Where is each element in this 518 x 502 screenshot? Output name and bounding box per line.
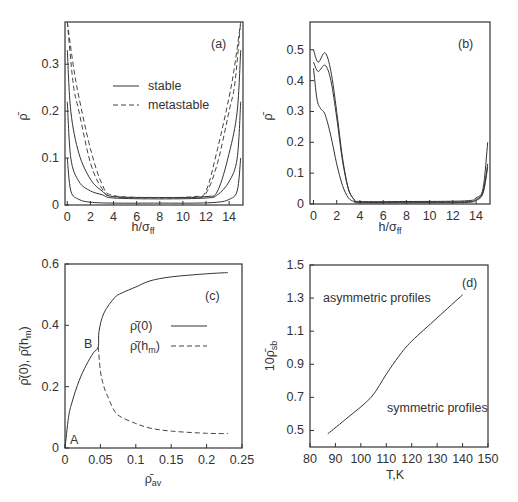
x-tick-label: 12: [199, 210, 213, 224]
panel-b-label: (b): [458, 37, 473, 51]
panel-d: 80901001101201301401500.50.70.91.11.31.5…: [263, 258, 498, 482]
y-tick-label: 0: [297, 197, 304, 211]
series-line: [314, 50, 488, 202]
y-tick-label: 0.7: [287, 390, 304, 404]
x-tick-label: 0: [310, 209, 317, 223]
x-tick-label: 80: [303, 452, 317, 466]
y-tick-label: 0.6: [42, 257, 59, 271]
y-tick-label: 0.5: [287, 43, 304, 57]
x-tick-label: 0.1: [127, 453, 144, 467]
x-tick-label: 90: [328, 452, 342, 466]
series-line: [67, 50, 240, 197]
x-tick-label: 0.25: [230, 453, 254, 467]
panel-a-legend: stable metastable: [113, 79, 209, 112]
y-tick-label: 1.1: [287, 324, 304, 338]
x-tick-label: 0: [62, 453, 69, 467]
x-tick-label: 10: [423, 209, 437, 223]
panel-a-ylabel: ρ̄: [16, 111, 30, 120]
annotation-a: A: [70, 433, 79, 447]
panel-a: 0246810121400.10.20.3 (a) stable metasta…: [16, 22, 243, 236]
x-tick-label: 8: [403, 209, 410, 223]
x-tick-label: 4: [110, 210, 117, 224]
x-tick-label: 110: [376, 452, 396, 466]
x-tick-label: 2: [87, 210, 94, 224]
panel-d-ylabel: 10ρ̄sb: [263, 341, 279, 372]
x-tick-label: 0.15: [159, 453, 183, 467]
annotation-symmetric: symmetric profiles: [387, 401, 488, 415]
y-tick-label: 0.9: [287, 357, 304, 371]
legend-rho0-label: ρ̄(0): [130, 319, 152, 333]
y-tick-label: 0.5: [287, 423, 304, 437]
series-line: [65, 273, 228, 448]
panel-c-curves: [65, 273, 228, 448]
y-tick-label: 0.4: [42, 318, 59, 332]
panel-b-axes: 0246810121400.10.20.30.40.5: [287, 43, 483, 223]
panel-a-label: (a): [211, 37, 226, 51]
x-tick-label: 10: [176, 210, 190, 224]
x-tick-label: 14: [469, 209, 483, 223]
y-tick-label: 0.3: [287, 104, 304, 118]
annotation-b: B: [84, 337, 92, 351]
x-tick-label: 2: [333, 209, 340, 223]
panel-c-label: (c): [205, 289, 220, 303]
x-tick-label: 4: [356, 209, 363, 223]
panel-a-xlabel: h/σff: [132, 220, 155, 236]
legend-metastable-label: metastable: [148, 98, 209, 112]
panel-b-ylabel: ρ̄: [261, 111, 275, 120]
panel-c: 00.050.10.150.20.2500.20.40.6 (c) ρ̄(0) …: [17, 257, 254, 488]
panel-c-ylabel: ρ̄(0), ρ̄(hm): [17, 326, 33, 385]
y-tick-label: 0.3: [42, 57, 59, 71]
series-line: [98, 347, 228, 434]
panel-c-xlabel: ρ̄av: [145, 472, 162, 488]
panel-d-xlabel: T,K: [386, 468, 405, 482]
y-tick-label: 1.3: [287, 291, 304, 305]
panel-b-curves: [314, 50, 488, 203]
panel-b: 0246810121400.10.20.30.40.5 (b) h/σff ρ̄: [261, 22, 490, 236]
x-tick-label: 120: [401, 452, 422, 466]
x-tick-label: 130: [427, 452, 448, 466]
y-tick-label: 1.5: [287, 258, 304, 272]
legend-stable-label: stable: [148, 79, 181, 93]
x-tick-label: 12: [446, 209, 460, 223]
x-tick-label: 100: [350, 452, 371, 466]
y-tick-label: 0: [52, 198, 59, 212]
x-tick-label: 150: [478, 452, 499, 466]
panel-d-label: (d): [462, 276, 477, 290]
y-tick-label: 0.2: [42, 380, 59, 394]
x-tick-label: 140: [452, 452, 473, 466]
x-tick-label: 8: [156, 210, 163, 224]
y-tick-label: 0.1: [287, 166, 304, 180]
y-tick-label: 0.4: [287, 74, 304, 88]
figure: 0246810121400.10.20.3 (a) stable metasta…: [0, 0, 518, 502]
panel-c-legend: ρ̄(0) ρ̄(hm): [130, 319, 207, 355]
x-tick-label: 0.2: [198, 453, 215, 467]
y-tick-label: 0.2: [42, 104, 59, 118]
panel-b-xlabel: h/σff: [379, 220, 402, 236]
y-tick-label: 0: [52, 441, 59, 455]
legend-rhohm-label: ρ̄(hm): [130, 339, 160, 355]
series-line: [67, 102, 240, 199]
y-tick-label: 0.2: [287, 135, 304, 149]
x-tick-label: 0.05: [88, 453, 112, 467]
x-tick-label: 0: [64, 210, 71, 224]
x-tick-label: 14: [222, 210, 236, 224]
y-tick-label: 0.1: [42, 151, 59, 165]
annotation-asymmetric: asymmetric profiles: [323, 291, 431, 305]
